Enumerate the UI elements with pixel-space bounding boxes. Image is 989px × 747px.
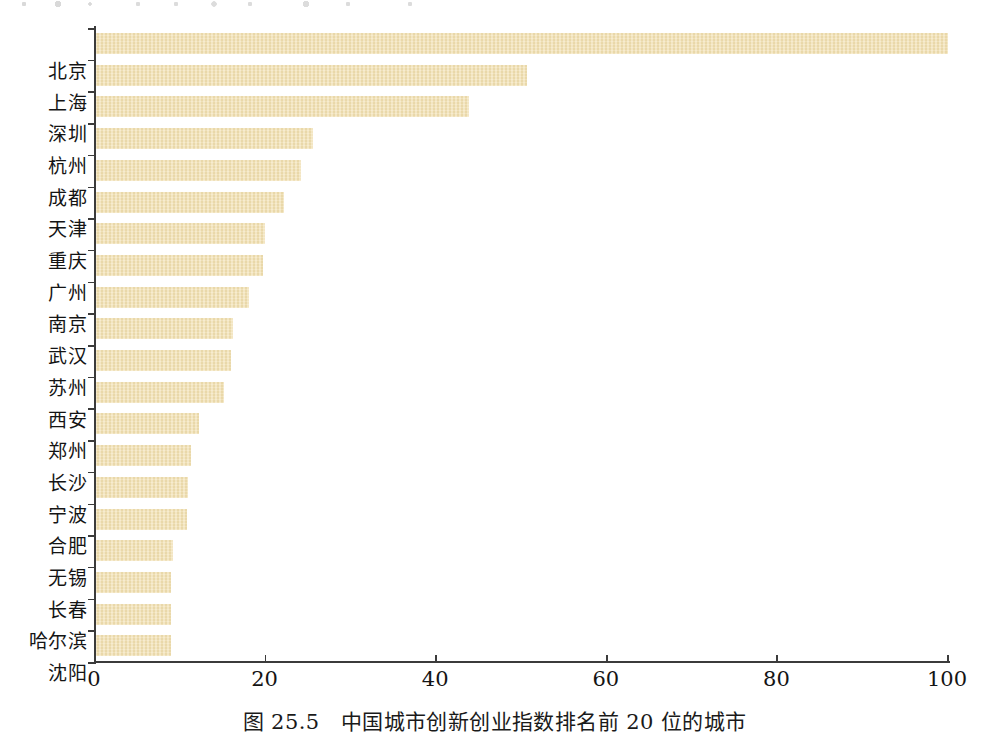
y-axis-label-14: 宁波 xyxy=(0,506,87,525)
y-axis-label-1: 上海 xyxy=(0,94,87,113)
bar xyxy=(95,33,948,54)
bar-row xyxy=(95,408,948,440)
x-axis-label-0: 0 xyxy=(87,669,100,690)
bar xyxy=(95,572,171,593)
y-axis-label-5: 天津 xyxy=(0,220,87,239)
y-axis-label-18: 哈尔滨 xyxy=(0,632,87,651)
bar xyxy=(95,604,171,625)
bar xyxy=(95,223,265,244)
bar-row xyxy=(95,28,948,60)
x-axis-label-20: 20 xyxy=(251,669,278,690)
bar xyxy=(95,350,231,371)
bar-row xyxy=(95,250,948,282)
bar-row xyxy=(95,504,948,536)
y-axis-label-12: 郑州 xyxy=(0,442,87,461)
bar-row xyxy=(95,187,948,219)
y-axis-label-3: 杭州 xyxy=(0,157,87,176)
bar-row xyxy=(95,313,948,345)
y-axis-label-6: 重庆 xyxy=(0,252,87,271)
x-axis-tick xyxy=(947,655,949,663)
y-axis-label-16: 无锡 xyxy=(0,569,87,588)
y-axis-label-2: 深圳 xyxy=(0,125,87,144)
y-axis-label-10: 苏州 xyxy=(0,379,87,398)
x-axis-label-100: 100 xyxy=(927,669,967,690)
bar-row xyxy=(95,599,948,631)
bar xyxy=(95,477,188,498)
bar-row xyxy=(95,91,948,123)
bar-chart-figure: 北京上海深圳杭州成都天津重庆广州南京武汉苏州西安郑州长沙宁波合肥无锡长春哈尔滨沈… xyxy=(0,0,989,747)
bar xyxy=(95,509,187,530)
y-axis-label-11: 西安 xyxy=(0,411,87,430)
y-axis-label-0: 北京 xyxy=(0,62,87,81)
bar-row xyxy=(95,440,948,472)
x-axis-label-80: 80 xyxy=(763,669,790,690)
bar xyxy=(95,635,171,656)
bar-row xyxy=(95,472,948,504)
y-axis-label-15: 合肥 xyxy=(0,537,87,556)
bar-row xyxy=(95,567,948,599)
bar-row xyxy=(95,630,948,662)
y-axis-label-13: 长沙 xyxy=(0,474,87,493)
figure-caption: 图 25.5 中国城市创新创业指数排名前 20 位的城市 xyxy=(0,708,989,736)
bar-row xyxy=(95,377,948,409)
bar-row xyxy=(95,535,948,567)
bar-row xyxy=(95,123,948,155)
plot-area: 北京上海深圳杭州成都天津重庆广州南京武汉苏州西安郑州长沙宁波合肥无锡长春哈尔滨沈… xyxy=(95,28,948,662)
bar xyxy=(95,445,191,466)
x-axis-label-40: 40 xyxy=(422,669,449,690)
bar xyxy=(95,540,173,561)
x-axis-tick xyxy=(265,655,267,663)
bar-row xyxy=(95,282,948,314)
bar xyxy=(95,192,284,213)
y-axis-label-4: 成都 xyxy=(0,189,87,208)
y-axis-label-9: 武汉 xyxy=(0,347,87,366)
bar xyxy=(95,65,527,86)
bar xyxy=(95,382,224,403)
bar xyxy=(95,160,301,181)
bar xyxy=(95,413,199,434)
x-axis-tick xyxy=(94,655,96,663)
y-axis-labels: 北京上海深圳杭州成都天津重庆广州南京武汉苏州西安郑州长沙宁波合肥无锡长春哈尔滨沈… xyxy=(0,56,87,690)
x-axis-label-60: 60 xyxy=(592,669,619,690)
y-axis-label-17: 长春 xyxy=(0,601,87,620)
x-axis-labels: 020406080100 xyxy=(94,663,950,703)
x-axis-tick xyxy=(435,655,437,663)
bar-row xyxy=(95,155,948,187)
y-axis-line xyxy=(94,26,96,664)
y-axis-label-7: 广州 xyxy=(0,284,87,303)
y-axis-label-8: 南京 xyxy=(0,315,87,334)
bar-row xyxy=(95,60,948,92)
bar-row xyxy=(95,218,948,250)
bar xyxy=(95,128,313,149)
bar-row xyxy=(95,345,948,377)
x-axis-tick xyxy=(776,655,778,663)
bar xyxy=(95,318,233,339)
bar xyxy=(95,96,469,117)
y-axis-label-19: 沈阳 xyxy=(0,664,87,683)
bar xyxy=(95,255,263,276)
x-axis-tick xyxy=(606,655,608,663)
bar xyxy=(95,287,249,308)
